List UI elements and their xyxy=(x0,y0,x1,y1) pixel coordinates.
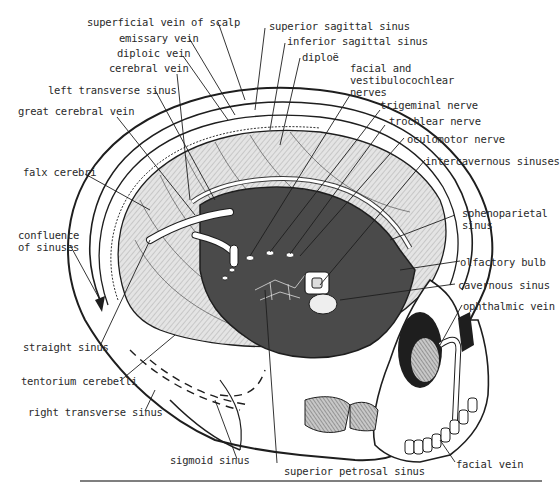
label-superficial-vein-of-scalp: superficial vein of scalp xyxy=(87,16,240,28)
label-trigeminal-nerve: trigeminal nerve xyxy=(380,99,478,111)
label-trochlear-nerve: trochlear nerve xyxy=(389,115,481,127)
label-tentorium-cerebelli: tentorium cerebelli xyxy=(21,375,137,387)
label-oculomotor-nerve: oculomotor nerve xyxy=(407,133,505,145)
label-facial-vestibulocochlear-nerves: facial and vestibulocochlear nerves xyxy=(350,62,454,98)
label-straight-sinus: straight sinus xyxy=(23,341,109,353)
label-sigmoid-sinus: sigmoid sinus xyxy=(170,454,250,466)
label-sphenoparietal-sinus: sphenoparietal sinus xyxy=(462,207,548,231)
label-diploic-vein: diploic vein xyxy=(117,47,190,59)
label-right-transverse-sinus: right transverse sinus xyxy=(28,406,163,418)
label-left-transverse-sinus: left transverse sinus xyxy=(48,84,177,96)
label-confluence-of-sinuses: confluence of sinuses xyxy=(18,229,79,253)
label-great-cerebral-vein: great cerebral vein xyxy=(18,105,134,117)
label-superior-petrosal-sinus: superior petrosal sinus xyxy=(284,465,425,477)
label-diploe: diploë xyxy=(302,51,339,63)
label-cerebral-vein: cerebral vein xyxy=(109,62,189,74)
label-falx-cerebri: falx cerebri xyxy=(23,166,96,178)
label-intercavernous-sinuses: intercavernous sinuses xyxy=(425,155,560,167)
label-facial-vein: facial vein xyxy=(456,458,523,470)
label-cavernous-sinus: cavernous sinus xyxy=(458,279,550,291)
label-superior-sagittal-sinus: superior sagittal sinus xyxy=(269,20,410,32)
label-ophthalmic-vein: ophthalmic vein xyxy=(463,300,555,312)
label-emissary-vein: emissary vein xyxy=(119,32,199,44)
label-inferior-sagittal-sinus: inferior sagittal sinus xyxy=(287,35,428,47)
label-olfactory-bulb: olfactory bulb xyxy=(460,256,546,268)
